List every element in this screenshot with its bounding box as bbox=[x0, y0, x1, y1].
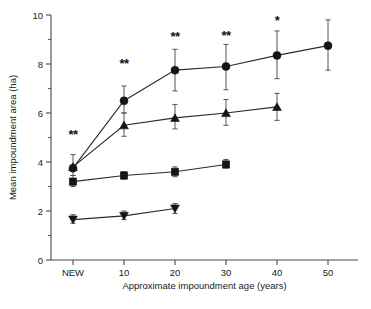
circle-series-point bbox=[120, 97, 128, 105]
y-tick-label: 4 bbox=[38, 157, 43, 168]
square-series-point bbox=[171, 168, 178, 175]
x-tick-label: NEW bbox=[62, 267, 84, 278]
significance-marker: ** bbox=[68, 127, 79, 142]
circle-series-point bbox=[222, 62, 230, 70]
x-axis-title: Approximate impoundment age (years) bbox=[122, 280, 286, 291]
significance-marker: ** bbox=[221, 28, 232, 43]
triangle-up-series-point bbox=[273, 103, 282, 111]
x-tick-label: 20 bbox=[170, 267, 181, 278]
circle-series-point bbox=[171, 66, 179, 74]
chart-figure: 0246810NEW1020304050Approximate impoundm… bbox=[0, 0, 371, 309]
square-series-line bbox=[73, 164, 226, 181]
significance-marker: ** bbox=[170, 29, 181, 44]
square-series-point bbox=[120, 172, 127, 179]
circle-series-point bbox=[273, 51, 281, 59]
y-tick-label: 6 bbox=[38, 108, 43, 119]
circle-series-point bbox=[324, 42, 332, 50]
x-tick-label: 50 bbox=[323, 267, 334, 278]
significance-marker: * bbox=[275, 13, 281, 28]
y-tick-label: 8 bbox=[38, 59, 43, 70]
square-series-point bbox=[222, 161, 229, 168]
line-chart-svg: 0246810NEW1020304050Approximate impoundm… bbox=[0, 0, 371, 309]
significance-marker: ** bbox=[119, 56, 130, 71]
y-tick-label: 10 bbox=[32, 10, 43, 21]
x-tick-label: 40 bbox=[272, 267, 283, 278]
x-tick-label: 30 bbox=[221, 267, 232, 278]
square-series-point bbox=[69, 178, 76, 185]
y-axis-title: Mean impoundment area (ha) bbox=[7, 75, 18, 200]
circle-series-line bbox=[73, 46, 328, 169]
y-tick-label: 0 bbox=[38, 255, 43, 266]
x-tick-label: 10 bbox=[119, 267, 130, 278]
y-tick-label: 2 bbox=[38, 206, 43, 217]
